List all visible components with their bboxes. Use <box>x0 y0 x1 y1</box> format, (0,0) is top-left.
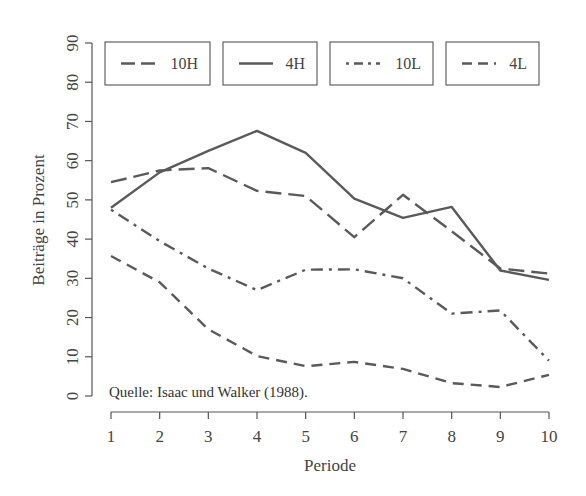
x-tick-label: 2 <box>155 427 164 446</box>
x-tick-label: 6 <box>350 427 359 446</box>
legend: 10H4H10L4L <box>105 42 539 85</box>
series-lines <box>111 131 549 387</box>
legend-item-4l: 4L <box>446 42 539 85</box>
x-tick-label: 10 <box>541 427 558 446</box>
y-tick-label: 90 <box>63 35 82 52</box>
legend-item-4h: 4H <box>223 42 317 85</box>
legend-label: 10L <box>395 55 421 72</box>
series-line-4h <box>111 131 549 280</box>
legend-label: 4H <box>285 55 305 72</box>
source-annotation: Quelle: Isaac und Walker (1988). <box>109 384 308 401</box>
y-tick-label: 20 <box>63 309 82 326</box>
legend-item-10h: 10H <box>105 42 210 85</box>
series-line-10l <box>111 210 549 361</box>
series-line-10h <box>111 168 549 274</box>
legend-item-10l: 10L <box>330 42 433 85</box>
x-axis-title: Periode <box>304 456 356 475</box>
y-axis-title: Beiträge in Prozent <box>29 154 48 286</box>
y-tick-label: 40 <box>63 231 82 248</box>
y-tick-label: 70 <box>63 113 82 130</box>
y-tick-label: 0 <box>63 392 82 401</box>
y-tick-label: 60 <box>63 152 82 169</box>
y-tick-label: 10 <box>63 348 82 365</box>
x-tick-label: 9 <box>496 427 505 446</box>
y-tick-label: 30 <box>63 270 82 287</box>
y-tick-label: 50 <box>63 191 82 208</box>
x-tick-label: 4 <box>253 427 262 446</box>
x-tick-label: 8 <box>447 427 456 446</box>
legend-label: 10H <box>170 55 198 72</box>
x-tick-label: 7 <box>399 427 408 446</box>
line-chart: 0102030405060708090 12345678910 10H4H10L… <box>0 0 586 496</box>
x-tick-label: 1 <box>107 427 116 446</box>
x-axis: 12345678910 <box>107 412 558 446</box>
y-tick-label: 80 <box>63 74 82 91</box>
x-tick-label: 5 <box>301 427 310 446</box>
legend-label: 4L <box>509 55 527 72</box>
x-tick-label: 3 <box>204 427 213 446</box>
y-axis: 0102030405060708090 <box>63 35 92 401</box>
series-line-4l <box>111 256 549 387</box>
